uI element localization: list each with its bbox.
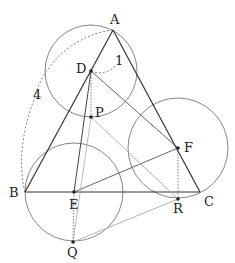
segment-ef: [74, 148, 178, 192]
geometry-diagram: A B C D E F P Q R 1 4: [0, 0, 235, 263]
label-f: F: [184, 140, 193, 155]
label-r: R: [173, 201, 184, 216]
label-d: D: [76, 61, 86, 76]
side-ac: [113, 30, 200, 192]
label-b: B: [9, 185, 19, 200]
label-q: Q: [67, 245, 78, 260]
point-e: [72, 190, 76, 194]
label-c: C: [204, 194, 214, 209]
segment-pr: [91, 117, 178, 199]
measure-label-ad: 1: [115, 53, 123, 68]
label-e: E: [69, 197, 79, 212]
point-f: [176, 146, 180, 150]
point-q: [71, 240, 75, 244]
measure-label-ab: 4: [33, 87, 41, 102]
point-p: [89, 115, 93, 119]
label-a: A: [109, 12, 120, 27]
arc-ad-measure: [91, 65, 116, 73]
point-d: [89, 69, 93, 73]
label-p: P: [95, 105, 104, 120]
segment-df: [91, 71, 178, 148]
segment-qr: [73, 199, 178, 242]
